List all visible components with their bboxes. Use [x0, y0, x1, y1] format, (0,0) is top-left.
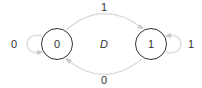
state-0: 0 — [42, 29, 73, 60]
transition-0-to-1: 1 — [66, 1, 144, 30]
state-0-label: 0 — [54, 38, 60, 50]
transition-0-to-0: 0 — [11, 35, 43, 55]
transition-1-to-0: 0 — [65, 58, 142, 86]
edge-0-to-1 — [66, 13, 142, 30]
transition-label-1-to-0: 0 — [101, 74, 107, 86]
diagram-title: D — [100, 38, 108, 50]
state-1-label: 1 — [148, 38, 154, 50]
self-loop-1 — [166, 35, 181, 53]
transition-label-1-to-1: 1 — [188, 38, 194, 50]
edge-1-to-0 — [66, 59, 142, 75]
transition-label-0-to-0: 0 — [11, 38, 17, 50]
self-loop-0 — [27, 35, 42, 53]
state-diagram: 1 0 0 1 0 1 D — [0, 0, 202, 88]
transition-1-to-1: 1 — [165, 33, 194, 53]
transition-label-0-to-1: 1 — [101, 1, 107, 13]
state-1: 1 — [136, 29, 167, 60]
